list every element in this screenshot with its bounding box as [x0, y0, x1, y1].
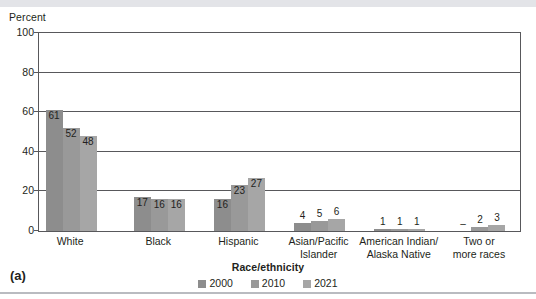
bar-value-label: 48	[83, 137, 94, 147]
bar: 48	[80, 136, 97, 231]
bottom-margin	[0, 295, 536, 299]
bar: 4	[294, 223, 311, 231]
bar-value-label: 16	[217, 200, 228, 210]
bar: 1	[408, 229, 425, 231]
bar: 23	[231, 185, 248, 231]
bar-group: 615248	[46, 33, 97, 231]
bar-value-label: 16	[171, 200, 182, 210]
y-tick-label: 100	[4, 27, 34, 37]
bar: 5	[311, 221, 328, 231]
bar-value-label: 52	[66, 129, 77, 139]
bar-group: 171616	[134, 33, 185, 231]
bar-value-label: 6	[334, 207, 340, 217]
legend-swatch	[251, 280, 259, 288]
bar-value-label: 3	[494, 213, 500, 223]
legend-swatch	[198, 280, 206, 288]
bar: 17	[134, 197, 151, 231]
top-band	[0, 0, 536, 7]
bar-value-label: 17	[137, 198, 148, 208]
bar: 16	[151, 199, 168, 231]
legend-item[interactable]: 2000	[198, 277, 232, 289]
y-tick-label: 20	[4, 185, 34, 195]
legend-item[interactable]: 2010	[251, 277, 285, 289]
bottom-rule	[0, 292, 536, 294]
y-tick-label: 80	[4, 67, 34, 77]
bar: 3	[488, 225, 505, 231]
bar: 2	[471, 227, 488, 231]
panel-label: (a)	[10, 268, 26, 283]
bar: 16	[168, 199, 185, 231]
bar-value-label: 1	[414, 217, 420, 227]
bar-value-label: 2	[477, 215, 483, 225]
bar-value-label: 61	[49, 111, 60, 121]
legend-label: 2021	[314, 277, 337, 289]
bar: 1	[391, 229, 408, 231]
y-axis-title: Percent	[9, 11, 46, 23]
chart-page: Percent 020406080100 6152481716161623274…	[0, 0, 536, 299]
bar-group: 162327	[214, 33, 265, 231]
y-axis-ticks: 020406080100	[0, 32, 34, 232]
bar-value-label: 5	[317, 209, 323, 219]
bar-value-label: –	[460, 219, 466, 229]
bar-value-label: 27	[251, 179, 262, 189]
legend-swatch	[303, 280, 311, 288]
bar-value-label: 4	[300, 211, 306, 221]
bar-value-label: 1	[397, 217, 403, 227]
bar-group: –23	[454, 33, 505, 231]
legend-item[interactable]: 2021	[303, 277, 337, 289]
bar-value-label: 1	[380, 217, 386, 227]
bar-value-label: 16	[154, 200, 165, 210]
bar-groups: 615248171616162327456111–23	[39, 33, 520, 231]
legend-label: 2000	[209, 277, 232, 289]
legend-label: 2010	[262, 277, 285, 289]
y-tick-label: 60	[4, 106, 34, 116]
bar: 6	[328, 219, 345, 231]
bar: 16	[214, 199, 231, 231]
bar: 27	[248, 178, 265, 231]
x-category-label: Two ormore races	[424, 235, 534, 260]
bar-group: 456	[294, 33, 345, 231]
bar: 61	[46, 110, 63, 231]
bar-value-label: 23	[234, 186, 245, 196]
y-tick-label: 0	[4, 225, 34, 235]
bar: 1	[374, 229, 391, 231]
bar-group: 111	[374, 33, 425, 231]
y-tick-label: 40	[4, 146, 34, 156]
legend: 200020102021	[0, 277, 536, 289]
bar: 52	[63, 128, 80, 231]
legend-title: Race/ethnicity	[0, 261, 536, 273]
